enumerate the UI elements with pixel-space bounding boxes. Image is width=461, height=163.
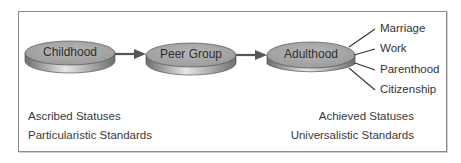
stage-label-peer-group: Peer Group [146, 47, 236, 61]
role-citizenship: Citizenship [380, 83, 436, 95]
achieved-statuses: Achieved Statuses [319, 110, 414, 122]
role-parenthood: Parenthood [380, 63, 439, 75]
particularistic-standards: Particularistic Standards [28, 129, 152, 141]
arrow-peer-to-adulthood [236, 50, 267, 60]
ascribed-statuses: Ascribed Statuses [28, 110, 121, 122]
universalistic-standards: Universalistic Standards [291, 129, 414, 141]
role-work: Work [380, 42, 407, 54]
arrow-childhood-to-peer [115, 49, 146, 59]
stage-label-childhood: Childhood [25, 45, 115, 59]
stage-label-adulthood: Adulthood [267, 47, 355, 61]
role-marriage: Marriage [380, 22, 425, 34]
